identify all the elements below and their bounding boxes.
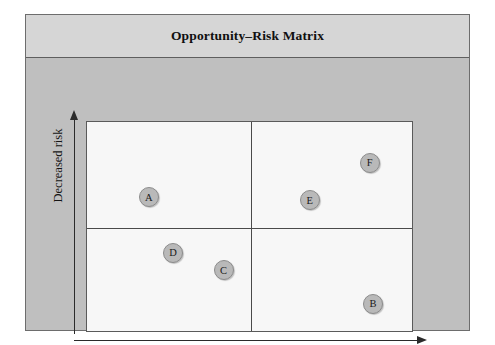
data-point-label: A (145, 192, 153, 203)
data-point-bubble: A (139, 187, 159, 207)
data-point-label: D (169, 247, 177, 258)
data-point-bubble: D (163, 243, 183, 263)
x-axis-line (74, 340, 419, 341)
opportunity-risk-matrix-figure: Opportunity–Risk Matrix Decreased risk I… (25, 14, 470, 331)
data-point-label: E (306, 195, 312, 206)
figure-title-bar: Opportunity–Risk Matrix (26, 15, 469, 58)
quadrant-divider-horizontal (87, 228, 412, 229)
data-point-bubble: C (214, 260, 234, 280)
y-axis-label: Decreased risk (51, 96, 66, 236)
plot-area: ABCDEF (86, 121, 413, 332)
data-point-bubble: E (300, 190, 320, 210)
data-point-label: C (220, 265, 227, 276)
data-point-bubble: F (360, 153, 380, 173)
chart-body: Decreased risk Increased opportunity ABC… (26, 58, 469, 330)
data-point-label: F (367, 157, 373, 168)
data-point-label: B (369, 298, 376, 309)
data-point-bubble: B (363, 294, 383, 314)
page-title: Opportunity–Risk Matrix (171, 28, 324, 44)
quadrant-divider-vertical (251, 122, 252, 331)
y-axis-line (74, 119, 75, 334)
x-axis-arrow-icon (417, 336, 427, 344)
